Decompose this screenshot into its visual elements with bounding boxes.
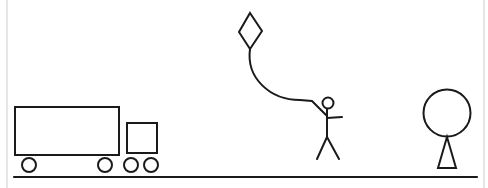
- stick-person: [317, 98, 342, 160]
- truck-wheel: [124, 158, 138, 172]
- round-figure-body: [438, 137, 456, 168]
- stick-person-head: [323, 98, 334, 109]
- stick-person-leg: [327, 137, 339, 159]
- truck-wheel: [22, 158, 36, 172]
- truck-cab: [127, 123, 157, 153]
- truck-wheel: [98, 158, 112, 172]
- round-figure: [424, 90, 471, 169]
- kite: [239, 13, 262, 49]
- stick-person-leg: [317, 137, 327, 159]
- stick-person-arm: [327, 117, 342, 118]
- round-figure-head: [424, 90, 471, 137]
- kite-string: [250, 49, 326, 115]
- truck-trailer: [15, 107, 119, 155]
- truck: [15, 107, 158, 172]
- drawing-canvas: [0, 0, 488, 188]
- truck-wheel: [144, 158, 158, 172]
